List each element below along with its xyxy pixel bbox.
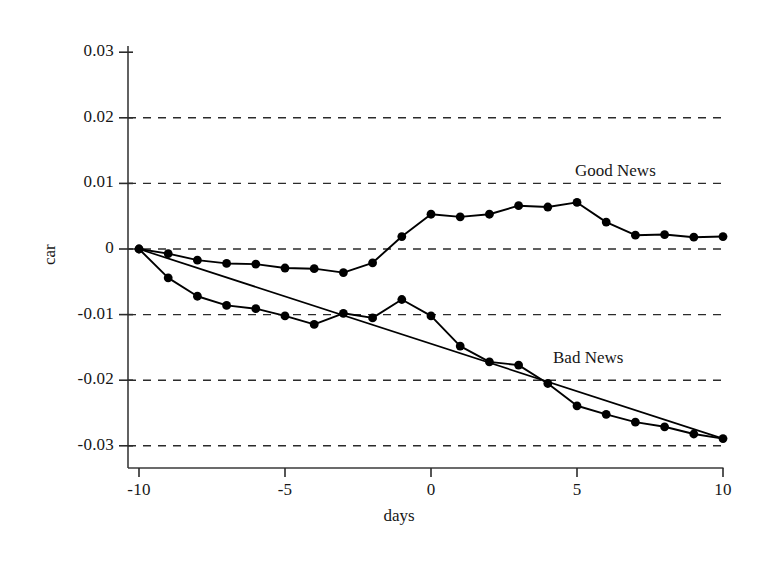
- x-axis-title: days: [383, 506, 414, 526]
- x-tick-label: 5: [547, 480, 607, 500]
- series-markers-good-news: [135, 198, 728, 277]
- y-axis-title: car: [40, 244, 60, 265]
- y-tick-label: 0.03: [48, 41, 114, 61]
- y-tick-label: -0.01: [48, 304, 114, 324]
- trendline-bad-news: [139, 249, 723, 439]
- y-tick-label: -0.02: [48, 369, 114, 389]
- annotation-good-news: Good News: [572, 161, 659, 181]
- x-tick-label: 10: [693, 480, 753, 500]
- tick-marks-group: [119, 52, 723, 477]
- chart-figure: 0.030.020.010-0.01-0.02-0.03 -10-50510 c…: [0, 0, 770, 567]
- y-tick-label: -0.03: [48, 435, 114, 455]
- x-tick-label: -10: [109, 480, 169, 500]
- x-tick-label: -5: [255, 480, 315, 500]
- x-tick-label: 0: [401, 480, 461, 500]
- y-tick-label: 0.01: [48, 172, 114, 192]
- axis-frame-group: [128, 46, 724, 468]
- annotation-bad-news: Bad News: [550, 348, 626, 368]
- y-tick-label: 0.02: [48, 107, 114, 127]
